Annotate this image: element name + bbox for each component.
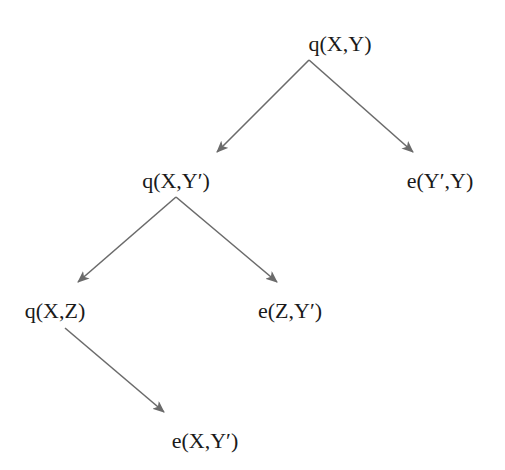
node-q-x-yprime: q(X,Y′): [142, 170, 210, 192]
edge-arrow-n0-n1: [217, 60, 309, 152]
edge-arrow-n0-n2: [309, 60, 413, 152]
node-q-x-z: q(X,Z): [25, 300, 85, 322]
edge-arrow-n3-n5: [65, 328, 164, 412]
node-root-q-x-y: q(X,Y): [309, 33, 372, 55]
node-e-yprime-y: e(Y′,Y): [407, 170, 474, 192]
edge-arrow-n1-n4: [176, 197, 277, 282]
node-e-z-yprime: e(Z,Y′): [258, 300, 322, 322]
tree-edges: [0, 0, 505, 470]
node-e-x-yprime: e(X,Y′): [172, 430, 239, 452]
derivation-tree-diagram: q(X,Y) q(X,Y′) e(Y′,Y) q(X,Z) e(Z,Y′) e(…: [0, 0, 505, 470]
edge-arrow-n1-n3: [78, 197, 176, 282]
